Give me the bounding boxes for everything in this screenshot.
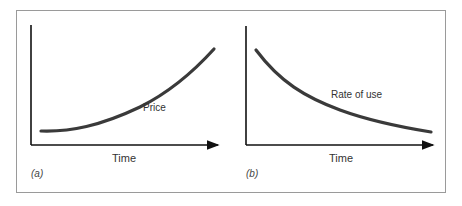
panel-a-axes	[31, 25, 218, 145]
panel-b-label: (b)	[246, 168, 258, 179]
panel-a-x-axis-label: Time	[112, 152, 136, 164]
panel-b-x-axis-label: Time	[329, 152, 353, 164]
diagram-canvas	[0, 0, 462, 206]
price-label: Price	[143, 102, 166, 113]
price-curve	[41, 49, 214, 131]
panel-a-label: (a)	[31, 168, 43, 179]
rate-of-use-label: Rate of use	[331, 89, 382, 100]
